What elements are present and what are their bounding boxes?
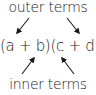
arrow-outer-to-a-icon — [17, 18, 29, 33]
arrow-inner-to-c-icon — [62, 58, 74, 74]
arrow-outer-to-d-icon — [67, 18, 79, 33]
arrows-layer — [0, 0, 96, 95]
arrow-inner-to-b-icon — [22, 58, 34, 74]
